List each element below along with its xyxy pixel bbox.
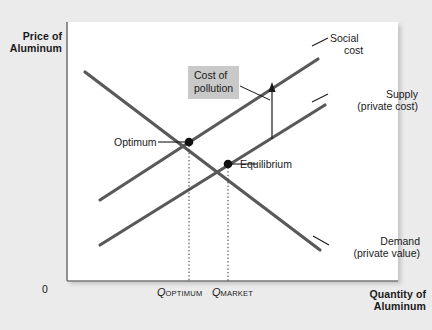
x-tick-q-optimum: QOPTIMUM	[157, 286, 202, 298]
x-axis-title: Quantity of Aluminum	[330, 288, 426, 313]
social-cost-label-line1: Social	[330, 32, 359, 44]
supply-curve-label: Supply (private cost)	[312, 88, 418, 113]
cost-of-pollution-line1: Cost of	[194, 69, 227, 81]
x-tick-q-market: QMARKET	[212, 286, 253, 298]
origin-label: 0	[42, 283, 48, 295]
demand-label-line2: (private value)	[353, 247, 420, 259]
x-axis-title-line2: Aluminum	[374, 300, 426, 312]
demand-label-line1: Demand	[380, 235, 420, 247]
y-axis-title-line2: Aluminum	[10, 42, 62, 54]
x-tick-q-market-subscript: MARKET	[221, 289, 253, 298]
y-axis-title-line1: Price of	[23, 30, 62, 42]
optimum-point-marker	[185, 138, 194, 147]
social-cost-leader	[312, 38, 328, 46]
x-tick-q-market-symbol: Q	[212, 286, 221, 298]
equilibrium-point-marker	[224, 160, 233, 169]
optimum-point-label: Optimum	[114, 136, 157, 148]
cost-of-pollution-line2: pollution	[194, 82, 233, 94]
x-tick-q-optimum-symbol: Q	[157, 286, 166, 298]
supply-label-line2: (private cost)	[357, 100, 418, 112]
social-cost-label-line2: cost	[330, 44, 390, 56]
social-cost-curve-label: Social cost	[330, 32, 390, 57]
y-axis-title: Price of Aluminum	[0, 30, 62, 55]
supply-label-line1: Supply	[386, 88, 418, 100]
equilibrium-point-label: Equilibrium	[240, 158, 292, 170]
economics-externality-diagram: Price of Aluminum Quantity of Aluminum 0…	[0, 0, 432, 330]
cost-of-pollution-annotation: Cost of pollution	[188, 66, 239, 99]
x-axis-title-line1: Quantity of	[369, 288, 426, 300]
demand-curve-label: Demand (private value)	[312, 235, 420, 260]
x-tick-q-optimum-subscript: OPTIMUM	[166, 289, 203, 298]
